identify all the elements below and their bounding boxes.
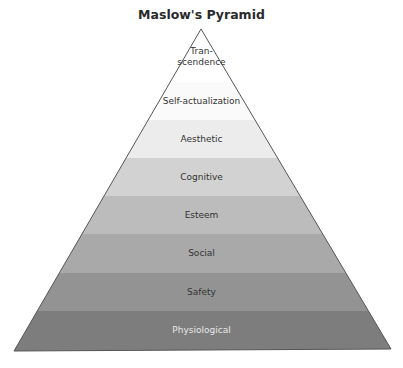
level-label-line: Self-actualization (100, 96, 303, 107)
level-label-line: Physiological (100, 325, 303, 336)
level-label: Cognitive (100, 172, 303, 183)
pyramid-level-7 (0, 311, 403, 368)
level-label-line: Aesthetic (100, 134, 303, 145)
level-label: Esteem (100, 210, 303, 221)
level-label-line: Safety (100, 287, 303, 298)
level-label-line: Cognitive (100, 172, 303, 183)
level-label: Self-actualization (100, 96, 303, 107)
level-label: Aesthetic (100, 134, 303, 145)
level-label-line: Social (100, 248, 303, 259)
level-label: Social (100, 248, 303, 259)
level-label: Physiological (100, 325, 303, 336)
level-label-line: scendence (100, 57, 303, 68)
level-label: Tran-scendence (100, 46, 303, 68)
level-label-line: Esteem (100, 210, 303, 221)
level-label: Safety (100, 287, 303, 298)
level-label-line: Tran- (100, 46, 303, 57)
